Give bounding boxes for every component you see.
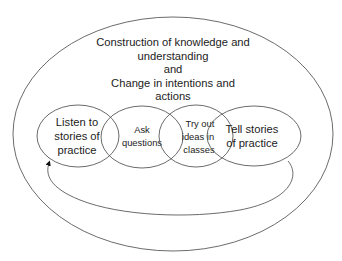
circle-tell-line-2: of practice [226, 137, 278, 149]
outer-title: Construction of knowledge and understand… [96, 36, 250, 102]
title-line-2: understanding [138, 50, 209, 62]
circle-ask-line-2: questions [122, 137, 162, 148]
title-line-5: actions [155, 90, 191, 102]
feedback-loop-arrow [48, 161, 293, 215]
circle-tell-line-1: Tell stories [226, 123, 279, 135]
circle-tell: Tell stories of practice [207, 106, 301, 166]
title-line-4: Change in intentions and [111, 77, 235, 89]
title-line-1: Construction of knowledge and [96, 36, 250, 48]
circle-listen-line-2: stories of [54, 130, 100, 142]
cycle-diagram: Construction of knowledge and understand… [0, 0, 342, 261]
circle-try-line-1: Try out [186, 118, 215, 129]
title-line-3: and [164, 63, 183, 75]
circle-ask-line-1: Ask [134, 124, 150, 135]
circle-listen-line-1: Listen to [56, 116, 98, 128]
circle-try-line-3: classes [183, 144, 215, 155]
circle-listen-line-3: practice [57, 144, 96, 156]
circle-listen: Listen to stories of practice [37, 105, 119, 167]
circle-try-line-2: ideas in [182, 131, 214, 142]
